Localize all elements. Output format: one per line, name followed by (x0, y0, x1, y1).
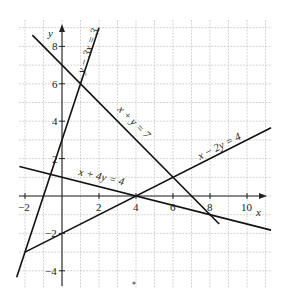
x-tick-label: 2 (96, 201, 102, 213)
x-tick-label: −2 (18, 201, 30, 213)
linear-equations-graph: −22468108642−2−4 x y y − 3x = 3 x + y = … (0, 0, 292, 295)
graph-canvas: −22468108642−2−4 x y y − 3x = 3 x + y = … (0, 0, 292, 295)
x-tick-label: 4 (133, 201, 139, 213)
dot-marker (132, 281, 135, 284)
y-tick-label: −4 (45, 265, 57, 277)
x-tick-label: 10 (241, 201, 253, 213)
y-tick-label: 8 (52, 40, 58, 52)
equation-label-x-4y-4: x + 4y = 4 (77, 165, 127, 188)
x-axis-label: x (255, 206, 261, 218)
y-tick-label: −2 (45, 227, 57, 239)
equation-label-y-3x-3: y − 3x = 3 (74, 26, 100, 75)
x-tick-label: 8 (207, 201, 213, 213)
equation-line (19, 167, 271, 231)
x-tick-label: 6 (170, 201, 176, 213)
y-axis-label: y (47, 27, 53, 39)
y-tick-label: 2 (52, 153, 58, 165)
y-tick-label: 4 (52, 115, 58, 127)
y-tick-label: 6 (52, 78, 58, 90)
